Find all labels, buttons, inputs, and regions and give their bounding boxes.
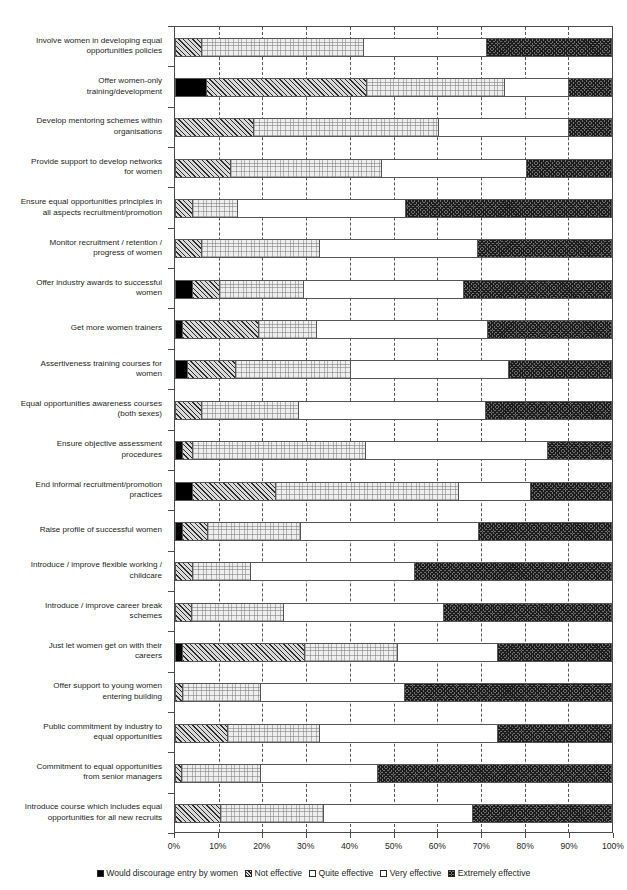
bar-segment-3 xyxy=(298,402,485,419)
bar-segment-4 xyxy=(497,644,611,661)
bar-segment-4 xyxy=(508,361,611,378)
stacked-bar xyxy=(175,159,612,178)
category-label-line: Assertiveness training courses for xyxy=(0,359,162,369)
x-axis-label: 50% xyxy=(385,841,402,851)
stacked-bar xyxy=(175,603,612,622)
bar-segment-2 xyxy=(275,483,458,500)
category-label-line: Involve women in developing equal xyxy=(0,36,162,46)
category-label-line: Ensure objective assessment xyxy=(0,439,162,449)
bar-segment-3 xyxy=(381,160,526,177)
category-label-line: Get more women trainers xyxy=(0,323,162,333)
category-label-line: Offer women-only xyxy=(0,76,162,86)
bar-segment-3 xyxy=(250,563,413,580)
category-label: Introduce / improve career breakschemes xyxy=(0,591,162,631)
bar-segment-3 xyxy=(363,39,487,56)
x-axis-tick xyxy=(525,833,526,838)
x-axis-tick xyxy=(350,833,351,838)
bar-row xyxy=(175,229,612,269)
category-label-line: equal opportunities xyxy=(0,732,162,742)
bar-segment-2 xyxy=(230,160,381,177)
bar-segment-2 xyxy=(181,765,261,782)
legend-item: Not effective xyxy=(245,868,302,878)
bar-segment-0 xyxy=(176,281,192,298)
category-label-line: Monitor recruitment / retention / xyxy=(0,238,162,248)
bar-segment-1 xyxy=(176,604,191,621)
category-label-line: Introduce / improve flexible working / xyxy=(0,560,162,570)
bar-segment-2 xyxy=(304,644,397,661)
legend-label: Very effective xyxy=(390,868,441,878)
stacked-bar xyxy=(175,320,612,339)
legend-swatch-icon xyxy=(380,870,387,877)
bar-segment-3 xyxy=(458,483,531,500)
category-axis-labels: Involve women in developing equalopportu… xyxy=(0,26,170,833)
bar-segment-4 xyxy=(405,200,611,217)
bar-segment-3 xyxy=(319,725,497,742)
stacked-bar xyxy=(175,38,612,57)
bar-segment-2 xyxy=(366,79,504,96)
bar-row xyxy=(175,794,612,834)
bar-segment-1 xyxy=(182,442,192,459)
category-label: Commitment to equal opportunitiesfrom se… xyxy=(0,752,162,792)
bar-segment-1 xyxy=(182,644,304,661)
bar-segment-2 xyxy=(227,725,320,742)
bar-segment-1 xyxy=(182,523,207,540)
category-label-line: Just let women get on with their xyxy=(0,641,162,651)
x-axis-label: 60% xyxy=(429,841,446,851)
x-axis-tick xyxy=(306,833,307,838)
bar-segment-3 xyxy=(323,805,471,822)
legend-swatch-icon xyxy=(97,870,104,877)
category-label-line: careers xyxy=(0,651,162,661)
bar-segment-1 xyxy=(176,805,220,822)
category-label: Ensure objective assessmentprocedures xyxy=(0,430,162,470)
legend-swatch-icon xyxy=(448,870,455,877)
bar-segment-1 xyxy=(192,281,220,298)
category-label-line: Raise profile of successful women xyxy=(0,525,162,535)
category-label-line: Offer industry awards to successful xyxy=(0,278,162,288)
stacked-bar xyxy=(175,683,612,702)
category-label: Just let women get on with theircareers xyxy=(0,631,162,671)
bar-segment-4 xyxy=(478,523,611,540)
bar-segment-2 xyxy=(192,442,365,459)
bar-segment-3 xyxy=(397,644,497,661)
stacked-bar xyxy=(175,482,612,501)
stacked-bar xyxy=(175,522,612,541)
category-label: Monitor recruitment / retention /progres… xyxy=(0,228,162,268)
x-axis-label: 100% xyxy=(602,841,624,851)
stacked-bar-chart: Involve women in developing equalopportu… xyxy=(0,0,627,890)
bar-segment-4 xyxy=(443,604,611,621)
bar-row xyxy=(175,390,612,430)
bar-segment-2 xyxy=(201,240,319,257)
x-axis-label: 70% xyxy=(473,841,490,851)
bar-row xyxy=(175,27,612,67)
bar-segment-4 xyxy=(487,321,611,338)
bar-segment-1 xyxy=(176,200,192,217)
bar-segment-4 xyxy=(486,39,611,56)
x-axis-tick xyxy=(262,833,263,838)
bar-row xyxy=(175,309,612,349)
stacked-bar xyxy=(175,78,612,97)
category-label-line: Commitment to equal opportunities xyxy=(0,762,162,772)
bar-segment-3 xyxy=(504,79,568,96)
category-label-line: progress of women xyxy=(0,248,162,258)
category-label-line: Develop mentoring schemes within xyxy=(0,116,162,126)
category-label-line: women xyxy=(0,369,162,379)
category-label-line: from senior managers xyxy=(0,772,162,782)
bar-segment-1 xyxy=(176,119,253,136)
category-label: Introduce course which includes equalopp… xyxy=(0,793,162,833)
bar-segment-2 xyxy=(191,604,284,621)
bar-segment-1 xyxy=(187,361,235,378)
stacked-bar xyxy=(175,118,612,137)
bar-segment-1 xyxy=(176,240,201,257)
stacked-bar xyxy=(175,441,612,460)
bar-row xyxy=(175,269,612,309)
legend-swatch-icon xyxy=(309,870,316,877)
category-label-line: all aspects recruitment/promotion xyxy=(0,208,162,218)
category-label-line: Ensure equal opportunities principles in xyxy=(0,197,162,207)
bar-row xyxy=(175,511,612,551)
bar-segment-3 xyxy=(365,442,547,459)
bar-segment-4 xyxy=(526,160,611,177)
legend-item: Very effective xyxy=(380,868,441,878)
category-label-line: training/development xyxy=(0,87,162,97)
bar-segment-0 xyxy=(176,79,206,96)
category-label-line: organisations xyxy=(0,127,162,137)
